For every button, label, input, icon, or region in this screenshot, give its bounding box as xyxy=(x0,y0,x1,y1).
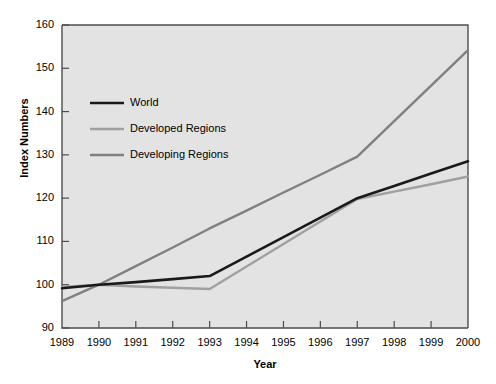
x-tick-label: 2000 xyxy=(446,337,490,348)
x-axis-title: Year xyxy=(62,358,468,370)
y-tick-label: 150 xyxy=(20,62,54,73)
legend-item-label: Developing Regions xyxy=(130,149,228,160)
y-tick-label: 110 xyxy=(20,235,54,246)
y-tick-label: 100 xyxy=(20,279,54,290)
legend-item-label: World xyxy=(130,97,159,108)
y-tick-label: 140 xyxy=(20,106,54,117)
y-tick-label: 90 xyxy=(20,322,54,333)
line-chart: Index Numbers Year 901001101201301401501… xyxy=(0,0,496,384)
chart-canvas xyxy=(0,0,496,384)
y-tick-label: 120 xyxy=(20,192,54,203)
y-tick-label: 130 xyxy=(20,149,54,160)
y-tick-label: 160 xyxy=(20,19,54,30)
y-axis-title: Index Numbers xyxy=(18,68,30,208)
legend-item-label: Developed Regions xyxy=(130,123,226,134)
